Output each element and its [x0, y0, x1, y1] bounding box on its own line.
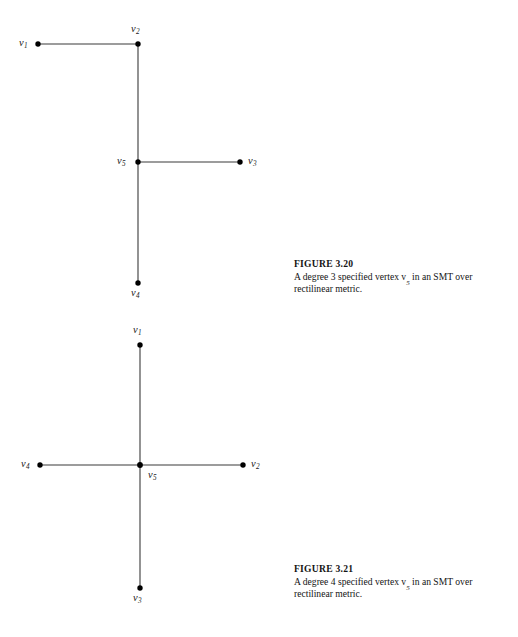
- caption-text-part-2: in an SMT over: [410, 271, 473, 282]
- vertex-label-v4: v4: [21, 459, 29, 470]
- caption-text-part-2: in an SMT over: [410, 576, 473, 587]
- caption-text-part-3: rectilinear metric.: [294, 588, 362, 599]
- vertex-dot-v5: [137, 462, 143, 468]
- figure-3-21-caption-body: A degree 4 specified vertex v5 in an SMT…: [294, 576, 504, 601]
- document-page: v1 v2 v5 v3 v4 FIGURE 3.20 A degree 3 sp…: [0, 0, 518, 637]
- vertex-dot-v4: [37, 462, 42, 467]
- figure-3-21-caption: FIGURE 3.21 A degree 4 specified vertex …: [294, 563, 504, 601]
- vertex-dot-v2: [240, 462, 245, 467]
- caption-text-part-3: rectilinear metric.: [294, 283, 362, 294]
- figure-3-20-caption-body: A degree 3 specified vertex v5 in an SMT…: [294, 271, 504, 296]
- vertex-label-v3: v3: [133, 593, 141, 604]
- figure-3-20-caption: FIGURE 3.20 A degree 3 specified vertex …: [294, 258, 504, 296]
- figure-3-20-caption-title: FIGURE 3.20: [294, 258, 504, 270]
- caption-text-part-1: A degree 3 specified vertex v: [294, 271, 406, 282]
- vertex-dot-v3: [137, 585, 142, 590]
- vertex-label-v2: v2: [251, 459, 259, 470]
- vertex-dot-v1: [137, 342, 142, 347]
- figure-3-21-diagram: v1 v4 v5 v2 v3: [0, 0, 290, 637]
- figure-3-21-caption-title: FIGURE 3.21: [294, 563, 504, 575]
- vertex-label-v5: v5: [148, 470, 156, 481]
- vertex-label-v1: v1: [133, 325, 141, 336]
- figure-3-21-graph: [0, 0, 290, 637]
- caption-text-part-1: A degree 4 specified vertex v: [294, 576, 406, 587]
